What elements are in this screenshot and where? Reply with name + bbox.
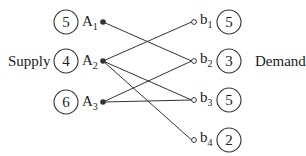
demand-node-b3: b35 bbox=[192, 88, 241, 112]
demand-value: 2 bbox=[225, 132, 233, 148]
transportation-diagram: 5A14A26A3 b15b23b35b42 Supply Demand bbox=[0, 0, 306, 156]
supply-value: 5 bbox=[62, 14, 70, 30]
demand-node-b1: b15 bbox=[192, 10, 241, 34]
demand-node-b4: b42 bbox=[192, 128, 241, 152]
demand-dot bbox=[192, 59, 197, 64]
supply-node-label: A3 bbox=[82, 93, 98, 112]
demand-dot bbox=[192, 20, 197, 25]
supply-node-label: A2 bbox=[82, 52, 98, 71]
supply-node-a3: 6A3 bbox=[54, 90, 106, 114]
demand-node-label: b1 bbox=[200, 11, 213, 30]
supply-label: Supply bbox=[8, 53, 51, 69]
supply-dot bbox=[100, 58, 106, 64]
supply-node-a1: 5A1 bbox=[54, 10, 106, 34]
edges bbox=[103, 22, 192, 140]
demand-node-label: b3 bbox=[200, 89, 213, 108]
supply-nodes: 5A14A26A3 bbox=[54, 10, 106, 114]
supply-value: 4 bbox=[62, 53, 70, 69]
supply-node-a2: 4A2 bbox=[54, 49, 106, 73]
demand-node-b2: b23 bbox=[192, 49, 241, 73]
supply-dot bbox=[100, 19, 106, 25]
demand-nodes: b15b23b35b42 bbox=[192, 10, 241, 152]
demand-node-label: b2 bbox=[200, 50, 213, 69]
demand-value: 5 bbox=[225, 14, 233, 30]
supply-dot bbox=[100, 99, 106, 105]
demand-node-label: b4 bbox=[200, 129, 213, 148]
demand-value: 5 bbox=[225, 92, 233, 108]
demand-dot bbox=[192, 138, 197, 143]
demand-dot bbox=[192, 98, 197, 103]
demand-label: Demand bbox=[255, 53, 306, 69]
supply-node-label: A1 bbox=[82, 13, 98, 32]
demand-value: 3 bbox=[225, 53, 233, 69]
supply-value: 6 bbox=[62, 94, 70, 110]
